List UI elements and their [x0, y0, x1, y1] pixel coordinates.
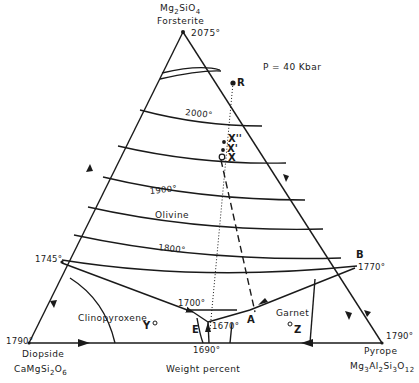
right-corner-name: Pyrope: [364, 346, 397, 356]
compositional-paths: [27, 30, 383, 345]
arrow-base-right-icon: [78, 339, 90, 347]
clinopyroxene-boundary: [70, 278, 115, 343]
axis-label-weight-percent: Weight percent: [166, 364, 240, 374]
label-B-temp: 1770°: [358, 262, 385, 272]
label-B: B: [356, 249, 364, 260]
arrow-right-edge-lower-icon: [345, 311, 352, 320]
apex-marker: [181, 30, 185, 34]
point-X-marker: [219, 154, 225, 160]
left-corner-formula: CaMgSi2O6: [14, 364, 67, 377]
left-corner-temp: 1790°: [6, 336, 33, 346]
cotectic-lines: [62, 263, 355, 343]
point-R-marker: [230, 80, 235, 85]
isotherms: [62, 68, 357, 273]
label-X: X: [228, 152, 236, 163]
apex-formula: Mg2SiO4: [160, 3, 201, 16]
label-left-edge-temp: 1745°: [35, 254, 62, 264]
isotherm-label-1900: 1900°: [149, 183, 177, 196]
isotherm-label-2000: 2000°: [185, 107, 213, 120]
arrow-left-edge-down-icon: [86, 164, 93, 172]
left-corner-name: Diopside: [22, 349, 64, 359]
right-corner-temp: 1790°: [386, 331, 413, 341]
isotherm-lower: [62, 260, 357, 273]
isotherm-label-1800: 1800°: [158, 242, 186, 255]
boundary-1700-to-E: [190, 310, 208, 322]
arrow-base-left-icon: [301, 339, 313, 347]
label-Z: Z: [294, 324, 301, 335]
isotherm-olivine-mid: [88, 207, 323, 229]
right-corner-formula: Mg3Al2Si3O12: [350, 361, 415, 374]
isotherm-1900: [103, 177, 305, 200]
dashed-line-X-to-A: [221, 160, 255, 312]
label-base-temp: 1690°: [193, 345, 220, 355]
dotted-line-R: [210, 83, 233, 330]
arrow-right-edge-down-icon: [283, 174, 289, 182]
point-X1-marker: [221, 148, 225, 152]
apex-name: Forsterite: [157, 16, 204, 26]
isotherm-label-1700: 1700°: [178, 298, 205, 308]
ternary-triangle: [29, 32, 382, 343]
label-R: R: [237, 77, 245, 88]
arrow-left-edge-up-icon: [50, 300, 57, 308]
field-olivine: Olivine: [155, 210, 189, 220]
isotherm-1800: [74, 235, 341, 259]
label-Y: Y: [142, 320, 151, 331]
field-clinopyroxene: Clinopyroxene: [78, 313, 147, 323]
label-E: E: [192, 324, 199, 335]
label-A: A: [247, 314, 255, 325]
label-E-temp: 1670°: [212, 321, 239, 331]
pressure-label: P = 40 Kbar: [263, 62, 321, 72]
point-X2-marker: [222, 140, 226, 144]
phase-diagram: Mg2SiO4 Forsterite 2075° P = 40 Kbar 200…: [0, 0, 419, 383]
isotherm-top: [162, 68, 220, 73]
arrow-E-up-icon: [205, 322, 211, 332]
boundary-B-to-A: [250, 268, 355, 310]
apex-temp: 2075°: [191, 28, 220, 38]
garnet-boundary: [310, 279, 315, 343]
field-garnet: Garnet: [276, 308, 309, 318]
